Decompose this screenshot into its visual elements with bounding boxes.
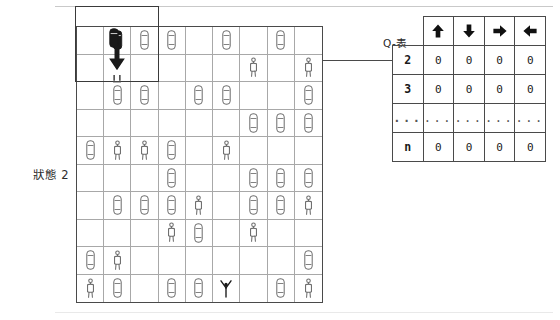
grid-cell-r5-c9[interactable]: [295, 137, 322, 165]
grid-cell-r4-c1[interactable]: [77, 110, 104, 138]
qtable-value-cell[interactable]: 0: [454, 75, 485, 104]
grid-cell-r9-c4[interactable]: [159, 247, 186, 275]
grid-cell-r1-c5[interactable]: [186, 27, 213, 55]
grid-cell-r9-c2[interactable]: [104, 247, 131, 275]
grid-cell-r10-c6[interactable]: [213, 275, 240, 303]
grid-cell-r5-c1[interactable]: [77, 137, 104, 165]
grid-cell-r9-c3[interactable]: [131, 247, 158, 275]
qtable-value-cell[interactable]: 0: [484, 75, 515, 104]
qtable-value-cell[interactable]: 0: [423, 75, 454, 104]
grid-cell-r6-c5[interactable]: [186, 165, 213, 193]
grid-cell-r2-c4[interactable]: [159, 55, 186, 83]
grid-cell-r3-c7[interactable]: [240, 82, 267, 110]
qtable-value-cell[interactable]: ...: [423, 104, 454, 133]
qtable-value-cell[interactable]: ...: [454, 104, 485, 133]
grid-cell-r3-c6[interactable]: [213, 82, 240, 110]
grid-cell-r2-c8[interactable]: [268, 55, 295, 83]
grid-cell-r6-c1[interactable]: [77, 165, 104, 193]
grid-cell-r3-c1[interactable]: [77, 82, 104, 110]
grid-cell-r1-c8[interactable]: [268, 27, 295, 55]
grid-cell-r5-c3[interactable]: [131, 137, 158, 165]
grid-cell-r2-c1[interactable]: [77, 55, 104, 83]
grid-cell-r9-c9[interactable]: [295, 247, 322, 275]
grid-cell-r2-c5[interactable]: [186, 55, 213, 83]
qtable-value-cell[interactable]: 0: [515, 133, 546, 162]
grid-cell-r9-c1[interactable]: [77, 247, 104, 275]
grid-cell-r6-c8[interactable]: [268, 165, 295, 193]
grid-cell-r1-c2[interactable]: [104, 27, 131, 55]
grid-cell-r6-c6[interactable]: [213, 165, 240, 193]
grid-cell-r4-c4[interactable]: [159, 110, 186, 138]
qtable-value-cell[interactable]: 0: [423, 133, 454, 162]
grid-cell-r8-c3[interactable]: [131, 220, 158, 248]
grid-cell-r5-c2[interactable]: [104, 137, 131, 165]
grid-cell-r6-c2[interactable]: [104, 165, 131, 193]
grid-cell-r4-c8[interactable]: [268, 110, 295, 138]
grid-cell-r3-c8[interactable]: [268, 82, 295, 110]
grid-cell-r10-c4[interactable]: [159, 275, 186, 303]
qtable-value-cell[interactable]: 0: [454, 133, 485, 162]
grid-cell-r10-c7[interactable]: [240, 275, 267, 303]
grid-cell-r2-c6[interactable]: [213, 55, 240, 83]
grid-cell-r2-c7[interactable]: [240, 55, 267, 83]
grid-cell-r8-c2[interactable]: [104, 220, 131, 248]
grid-cell-r1-c4[interactable]: [159, 27, 186, 55]
grid-cell-r4-c9[interactable]: [295, 110, 322, 138]
grid-cell-r8-c6[interactable]: [213, 220, 240, 248]
grid-cell-r7-c4[interactable]: [159, 192, 186, 220]
grid-cell-r8-c4[interactable]: [159, 220, 186, 248]
grid-cell-r8-c1[interactable]: [77, 220, 104, 248]
qtable-value-cell[interactable]: ...: [484, 104, 515, 133]
grid-cell-r5-c6[interactable]: [213, 137, 240, 165]
grid-cell-r5-c5[interactable]: [186, 137, 213, 165]
grid-cell-r3-c9[interactable]: [295, 82, 322, 110]
grid-cell-r4-c7[interactable]: [240, 110, 267, 138]
grid-cell-r10-c5[interactable]: [186, 275, 213, 303]
qtable-value-cell[interactable]: 0: [423, 46, 454, 75]
grid-cell-r10-c1[interactable]: [77, 275, 104, 303]
qtable-action-header-right[interactable]: [484, 17, 515, 46]
qtable-value-cell[interactable]: 0: [484, 133, 515, 162]
grid-cell-r10-c3[interactable]: [131, 275, 158, 303]
qtable-row[interactable]: 20000: [393, 46, 546, 75]
grid-cell-r7-c9[interactable]: [295, 192, 322, 220]
grid-cell-r9-c5[interactable]: [186, 247, 213, 275]
grid-cell-r9-c6[interactable]: [213, 247, 240, 275]
grid-cell-r6-c4[interactable]: [159, 165, 186, 193]
parking-lot-grid[interactable]: [76, 26, 323, 303]
grid-cell-r6-c9[interactable]: [295, 165, 322, 193]
grid-cell-r4-c6[interactable]: [213, 110, 240, 138]
grid-cell-r10-c9[interactable]: [295, 275, 322, 303]
qtable-value-cell[interactable]: 0: [484, 46, 515, 75]
grid-cell-r9-c8[interactable]: [268, 247, 295, 275]
grid-cell-r4-c5[interactable]: [186, 110, 213, 138]
qtable-row[interactable]: 30000: [393, 75, 546, 104]
grid-cell-r7-c5[interactable]: [186, 192, 213, 220]
grid-cell-r5-c8[interactable]: [268, 137, 295, 165]
grid-cell-r1-c1[interactable]: [77, 27, 104, 55]
grid-cell-r7-c1[interactable]: [77, 192, 104, 220]
qtable-value-cell[interactable]: ...: [515, 104, 546, 133]
qtable-row[interactable]: n0000: [393, 133, 546, 162]
grid-cell-r3-c5[interactable]: [186, 82, 213, 110]
grid-cell-r7-c6[interactable]: [213, 192, 240, 220]
qtable-row[interactable]: ...............: [393, 104, 546, 133]
qtable-value-cell[interactable]: 0: [454, 46, 485, 75]
grid-cell-r2-c3[interactable]: [131, 55, 158, 83]
grid-cell-r1-c9[interactable]: [295, 27, 322, 55]
grid-cell-r5-c7[interactable]: [240, 137, 267, 165]
grid-cell-r4-c2[interactable]: [104, 110, 131, 138]
qtable-value-cell[interactable]: 0: [515, 46, 546, 75]
grid-cell-r3-c3[interactable]: [131, 82, 158, 110]
qtable-value-cell[interactable]: 0: [515, 75, 546, 104]
grid-cell-r7-c7[interactable]: [240, 192, 267, 220]
grid-cell-r8-c7[interactable]: [240, 220, 267, 248]
grid-cell-r6-c7[interactable]: [240, 165, 267, 193]
grid-cell-r1-c6[interactable]: [213, 27, 240, 55]
grid-cell-r10-c2[interactable]: [104, 275, 131, 303]
grid-cell-r6-c3[interactable]: [131, 165, 158, 193]
qtable-action-header-down[interactable]: [454, 17, 485, 46]
grid-cell-r3-c4[interactable]: [159, 82, 186, 110]
grid-cell-r7-c3[interactable]: [131, 192, 158, 220]
qtable-action-header-up[interactable]: [423, 17, 454, 46]
